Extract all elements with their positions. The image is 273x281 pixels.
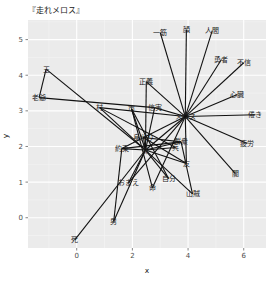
y-tick-label: 2 — [19, 143, 23, 151]
node-label: 王 — [43, 66, 50, 74]
node-label: 闇 — [232, 170, 239, 178]
node-label: 約束 — [115, 144, 129, 153]
node-label: 市 — [128, 104, 135, 113]
node-label: 信実 — [148, 103, 162, 112]
x-tick-label: 4 — [186, 252, 191, 260]
node-label: 山賊 — [186, 189, 200, 198]
node-label: 一筋 — [153, 28, 167, 37]
y-tick-label: 5 — [19, 36, 23, 44]
y-axis-label: y — [1, 133, 10, 138]
x-tick-label: 0 — [74, 252, 78, 260]
y-tick-label: 4 — [19, 72, 24, 80]
node-label: 疲労 — [240, 139, 254, 148]
x-axis-label: x — [145, 266, 150, 275]
node-label: 死 — [71, 236, 78, 244]
node-label: 人間 — [205, 27, 219, 35]
node-label: 友 — [183, 159, 190, 168]
node-label: 顔 — [183, 25, 190, 34]
x-tick-label: 6 — [241, 252, 246, 260]
node-label: 正義 — [139, 77, 153, 86]
y-tick-label: 3 — [19, 107, 23, 115]
y-tick-label: 1 — [19, 179, 23, 187]
node-label: おまえ — [118, 179, 139, 187]
node-label: 心臓 — [230, 90, 244, 99]
node-label: 自分 — [162, 174, 176, 183]
y-tick-label: 0 — [19, 214, 23, 222]
node-label: 老爺 — [32, 93, 46, 102]
node-label: 妹 — [142, 146, 149, 155]
node-label: 身代り — [133, 133, 154, 142]
node-label: 倦き — [248, 110, 262, 119]
node-label: 勇者 — [214, 55, 228, 64]
node-label: 不信 — [237, 58, 251, 67]
node-label: 男 — [110, 218, 117, 226]
x-tick-label: 2 — [130, 252, 134, 260]
chart-title: 『走れメロス』 — [28, 6, 84, 15]
network-chart: 王老爺村市信実正義メロス一筋顔人間勇者不信心臓倦き疲労闇山賊友自分兵群衆命妹約束… — [0, 0, 273, 281]
node-label: 命 — [149, 183, 156, 192]
node-label: 村 — [96, 103, 103, 112]
node-label: メロス — [175, 113, 196, 121]
node-label: 群衆 — [174, 137, 188, 146]
